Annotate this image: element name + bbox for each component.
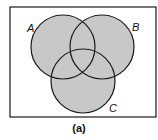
set-a-label: A <box>26 22 34 34</box>
set-b-label: B <box>132 21 139 33</box>
figure-caption: (a) <box>0 122 158 134</box>
set-c-label: C <box>109 102 117 114</box>
venn-diagram: A B C <box>0 0 158 120</box>
